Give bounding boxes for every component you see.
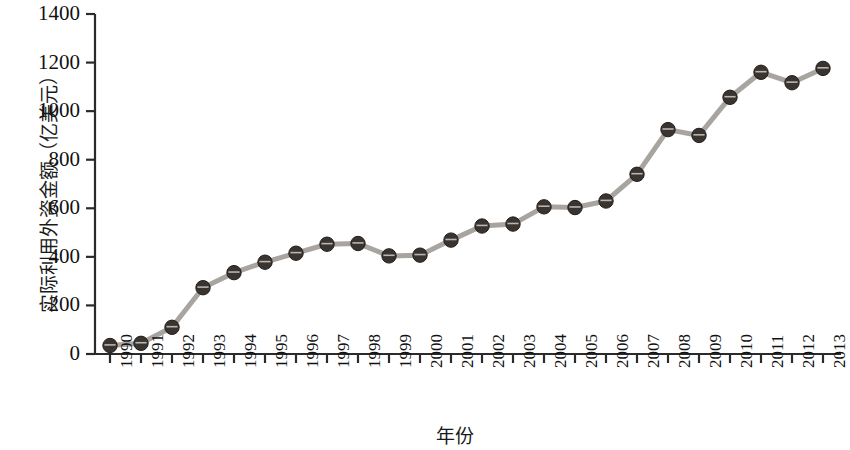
x-tick-label: 1997 [334,334,354,368]
axes-group [86,14,841,363]
x-tick-label: 2009 [706,334,726,368]
x-tick-label: 2011 [768,335,788,368]
x-tick-label: 2010 [737,334,757,368]
x-tick-label: 2007 [644,334,664,368]
y-tick-label: 600 [0,195,80,220]
x-tick-label: 2001 [458,334,478,368]
x-tick-label: 2003 [520,334,540,368]
y-tick-label: 1000 [0,98,80,123]
x-tick-label: 1992 [179,334,199,368]
x-tick-label: 2000 [427,334,447,368]
x-tick-label: 1991 [148,334,168,368]
x-tick-label: 2008 [675,334,695,368]
x-tick-label: 2002 [489,334,509,368]
x-tick-label: 2005 [582,334,602,368]
x-tick-label: 1999 [396,334,416,368]
y-tick-label: 400 [0,244,80,269]
x-tick-label: 2004 [551,334,571,368]
x-tick-label: 1994 [241,334,261,368]
x-tick-label: 1996 [303,334,323,368]
x-tick-label: 1995 [272,334,292,368]
y-tick-label: 800 [0,147,80,172]
x-tick-label: 1990 [117,334,137,368]
x-tick-label: 2013 [830,334,850,368]
x-tick-label: 1998 [365,334,385,368]
y-tick-label: 200 [0,292,80,317]
y-tick-label: 1400 [0,1,80,26]
y-tick-label: 0 [0,341,80,366]
x-tick-label: 2006 [613,334,633,368]
y-tick-label: 1200 [0,50,80,75]
data-line [110,68,823,345]
x-tick-label: 1993 [210,334,230,368]
x-tick-label: 2012 [799,334,819,368]
